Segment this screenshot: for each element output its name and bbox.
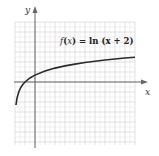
- y-axis-arrow-icon: [33, 6, 38, 13]
- x-axis-arrow-icon: [141, 80, 148, 85]
- function-title: f(x) = ln (x + 2): [59, 36, 134, 46]
- function-plot: y x f(x) = ln (x + 2): [0, 0, 159, 156]
- y-axis-label: y: [24, 5, 31, 15]
- function-curve: [16, 57, 135, 105]
- x-axis-label: x: [145, 87, 150, 97]
